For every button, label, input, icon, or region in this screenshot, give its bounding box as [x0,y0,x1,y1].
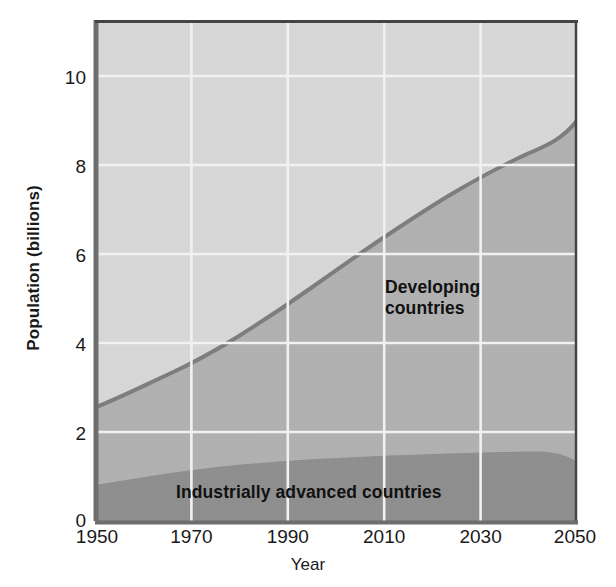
x-tick-1970: 1970 [146,527,236,546]
x-tick-1990: 1990 [243,527,333,546]
x-tick-2030: 2030 [436,527,526,546]
annotation-industrially-advanced-countries: Industrially advanced countries [176,482,442,503]
annotation-developing-line-2: countries [385,298,480,319]
x-axis-title: Year [0,555,616,575]
x-tick-2010: 2010 [339,527,429,546]
annotation-developing-countries: Developing countries [385,277,480,318]
x-tick-2050: 2050 [530,527,616,546]
chart-figure: Population (billions) 10 8 6 4 2 0 [0,0,616,587]
annotation-developing-line-1: Developing [385,277,480,298]
x-tick-1950: 1950 [52,527,142,546]
